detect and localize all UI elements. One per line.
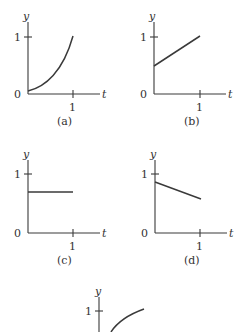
x-axis-label: t — [229, 227, 234, 240]
origin-label: 0 — [140, 88, 147, 101]
caption-d: (d) — [184, 254, 200, 267]
x-tick-label-1: 1 — [196, 101, 203, 114]
curve-a — [28, 36, 73, 91]
x-tick-label-1: 1 — [196, 240, 203, 253]
y-tick-label-1: 1 — [14, 168, 21, 181]
graphs-figure: y 1 0 t 1 (a) y 1 0 t 1 (b) y 1 0 t 1 (c… — [0, 0, 248, 332]
y-axis-label: y — [22, 148, 30, 161]
origin-label: 0 — [14, 88, 21, 101]
y-axis-label: y — [94, 285, 102, 298]
caption-a: (a) — [57, 115, 72, 128]
y-axis-label: y — [148, 10, 156, 23]
curve-d — [155, 182, 201, 199]
y-tick-label-1: 1 — [141, 168, 148, 181]
y-tick-label-1: 1 — [14, 31, 21, 44]
x-tick-label-1: 1 — [69, 101, 76, 114]
origin-label: 0 — [14, 227, 21, 240]
x-tick-label-1: 1 — [69, 240, 76, 253]
panel-b: y 1 0 t 1 (b) — [140, 10, 233, 128]
y-tick-label-1: 1 — [140, 31, 147, 44]
caption-b: (b) — [184, 115, 200, 128]
x-axis-label: t — [228, 88, 233, 101]
panel-d: y 1 0 t 1 (d) — [141, 148, 234, 267]
caption-c: (c) — [57, 254, 72, 267]
panel-e: y 1 — [85, 285, 144, 332]
y-axis-label: y — [22, 10, 30, 23]
x-axis-label: t — [102, 227, 107, 240]
y-axis-label: y — [149, 148, 157, 161]
curve-b — [154, 36, 200, 66]
panel-c: y 1 0 t 1 (c) — [14, 148, 107, 267]
y-tick-label-1: 1 — [85, 305, 92, 318]
panel-a: y 1 0 t 1 (a) — [14, 10, 107, 128]
x-axis-label: t — [102, 88, 107, 101]
curve-e — [111, 309, 144, 332]
origin-label: 0 — [141, 227, 148, 240]
